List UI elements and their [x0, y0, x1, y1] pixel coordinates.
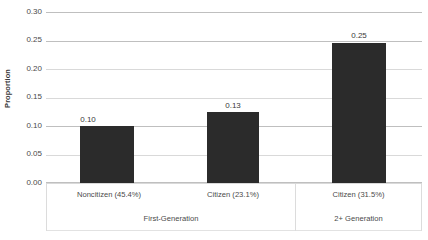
bar-value-label-2: 0.13 — [186, 101, 280, 110]
gridline-0.30 — [46, 12, 422, 13]
category-axis: Noncitizen (45.4%) Citizen (23.1%) Citiz… — [46, 183, 422, 231]
bar-value-label-1: 0.10 — [41, 115, 135, 124]
y-tick-label-0.15: 0.15 — [14, 93, 42, 101]
category-axis-right-edge — [421, 184, 422, 231]
bar-citizen-first-generation[interactable] — [207, 112, 259, 183]
y-tick-label-0.05: 0.05 — [14, 150, 42, 158]
bar-noncitizen-first-generation[interactable] — [80, 126, 134, 183]
y-tick-label-0.20: 0.20 — [14, 65, 42, 73]
y-tick-label-0.25: 0.25 — [14, 36, 42, 44]
category-label-citizen-first-generation: Citizen (23.1%) — [171, 184, 295, 206]
group-label-second-generation: 2+ Generation — [296, 206, 421, 231]
bar-citizen-second-generation[interactable] — [332, 43, 386, 183]
category-label-citizen-second-generation: Citizen (31.5%) — [296, 184, 421, 206]
bar-value-label-3: 0.25 — [312, 31, 406, 40]
gridline-0.25 — [46, 41, 422, 42]
bar-chart: Proportion 0.30 0.25 0.20 0.15 0.10 0.05… — [0, 0, 428, 240]
y-axis-title: Proportion — [3, 49, 12, 129]
category-label-noncitizen-first-generation: Noncitizen (45.4%) — [47, 184, 171, 206]
y-tick-label-0.30: 0.30 — [14, 8, 42, 16]
group-label-first-generation: First-Generation — [47, 206, 295, 231]
y-tick-label-0.10: 0.10 — [14, 122, 42, 130]
y-tick-label-0.00: 0.00 — [14, 179, 42, 187]
